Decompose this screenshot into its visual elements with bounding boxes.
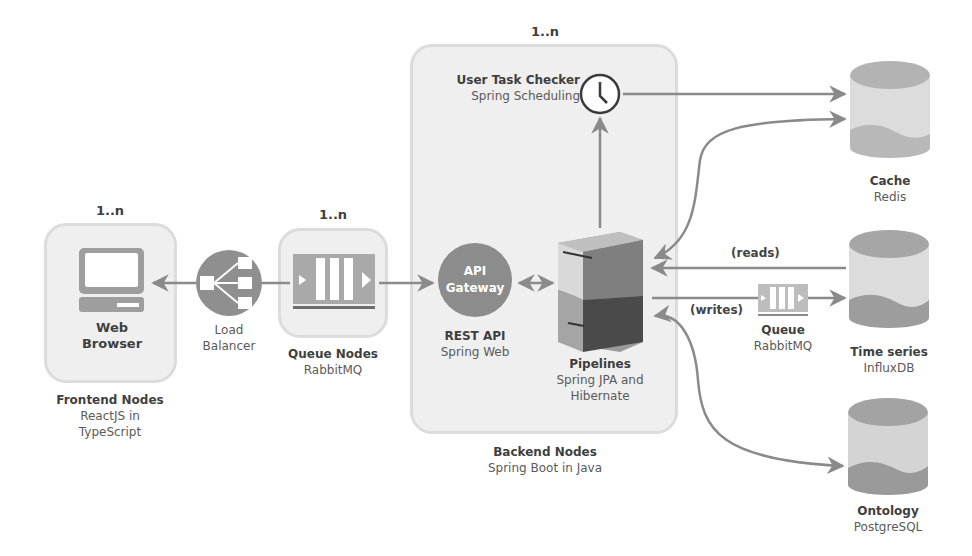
timeseries-database-icon (849, 230, 929, 328)
computer-icon (79, 248, 144, 312)
ontology-database-icon (848, 398, 928, 495)
clock-icon (581, 75, 619, 113)
ontology-store-label: Ontology PostgreSQL (838, 503, 938, 535)
queue-nodes-subtitle: RabbitMQ (278, 362, 388, 378)
rest-api-label: REST API Spring Web (425, 328, 525, 360)
write-queue-label: Queue RabbitMQ (743, 322, 823, 354)
frontend-group-sub-2: TypeScript (40, 424, 180, 440)
ontology-store-subtitle: PostgreSQL (838, 519, 938, 535)
cache-store-subtitle: Redis (840, 189, 940, 205)
ontology-store-title: Ontology (838, 503, 938, 519)
frontend-group-label: Frontend Nodes ReactJS in TypeScript (40, 392, 180, 440)
frontend-group-title: Frontend Nodes (40, 392, 180, 408)
backend-group-title: Backend Nodes (470, 444, 620, 460)
web-browser-title-2: Browser (70, 336, 154, 352)
load-balancer-title-1: Load (194, 322, 264, 338)
writes-edge-label: (writes) (690, 303, 743, 317)
server-icon (558, 232, 643, 352)
timeseries-store-subtitle: InfluxDB (836, 360, 942, 376)
queue-icon (293, 254, 375, 309)
rest-api-title: REST API (425, 328, 525, 344)
cache-store-title: Cache (840, 173, 940, 189)
edge-pipelines-cache (655, 119, 845, 258)
task-checker-title: User Task Checker (430, 72, 580, 88)
queue-nodes-label: Queue Nodes RabbitMQ (278, 346, 388, 378)
backend-group-label: Backend Nodes Spring Boot in Java (470, 444, 620, 476)
pipelines-label: Pipelines Spring JPA and Hibernate (540, 356, 660, 404)
rest-api-subtitle: Spring Web (425, 344, 525, 360)
api-gateway-line-2: Gateway (440, 280, 510, 297)
frontend-group-sub-1: ReactJS in (40, 408, 180, 424)
task-checker-subtitle: Spring Scheduling (430, 88, 580, 104)
load-balancer-icon (196, 250, 262, 316)
write-queue-title: Queue (743, 322, 823, 338)
write-queue-icon (758, 284, 808, 316)
api-gateway-line-1: API (440, 263, 510, 280)
cache-store-label: Cache Redis (840, 173, 940, 205)
load-balancer-title-2: Balancer (194, 338, 264, 354)
task-checker-label: User Task Checker Spring Scheduling (430, 72, 580, 104)
write-queue-subtitle: RabbitMQ (743, 338, 823, 354)
api-gateway-label: API Gateway (440, 263, 510, 297)
queue-nodes-title: Queue Nodes (278, 346, 388, 362)
web-browser-label: Web Browser (70, 320, 154, 352)
timeseries-store-title: Time series (836, 344, 942, 360)
cache-database-icon (850, 61, 930, 158)
backend-group-subtitle: Spring Boot in Java (470, 460, 620, 476)
pipelines-sub-2: Hibernate (540, 388, 660, 404)
load-balancer-label: Load Balancer (194, 322, 264, 354)
timeseries-store-label: Time series InfluxDB (836, 344, 942, 376)
pipelines-title: Pipelines (540, 356, 660, 372)
reads-edge-label: (reads) (731, 246, 780, 260)
pipelines-sub-1: Spring JPA and (540, 372, 660, 388)
web-browser-title-1: Web (70, 320, 154, 336)
